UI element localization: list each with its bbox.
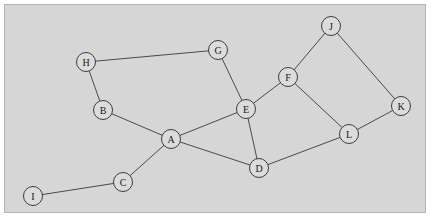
graph-node-circle-a[interactable] [162,130,181,149]
graph-node-d[interactable]: D [250,159,269,178]
graph-edge-a-c [130,145,164,175]
graph-edge-h-b [89,71,100,101]
graph-edge-e-d [248,118,257,158]
graph-node-circle-f[interactable] [279,68,298,87]
graph-panel: ABCDEFGHIJKL [4,4,426,213]
graph-canvas: ABCDEFGHIJKL [5,5,426,213]
graph-edge-j-k [337,33,394,99]
graph-figure: ABCDEFGHIJKL [0,0,431,219]
graph-node-f[interactable]: F [279,68,298,87]
graph-edge-e-f [254,83,281,103]
graph-node-j[interactable]: J [322,17,341,36]
graph-edge-k-l [357,111,392,130]
graph-node-h[interactable]: H [77,53,96,72]
graph-node-b[interactable]: B [94,101,113,120]
graph-node-k[interactable]: K [392,97,411,116]
graph-node-circle-l[interactable] [340,125,359,144]
graph-node-circle-c[interactable] [114,173,133,192]
graph-edge-a-e [180,113,237,136]
graph-node-circle-h[interactable] [77,53,96,72]
graph-edge-g-e [222,59,242,101]
graph-node-circle-k[interactable] [392,97,411,116]
graph-node-circle-e[interactable] [237,100,256,119]
graph-node-circle-j[interactable] [322,17,341,36]
graph-edge-f-l [295,83,342,127]
graph-node-e[interactable]: E [237,100,256,119]
graph-node-g[interactable]: G [209,41,228,60]
graph-node-c[interactable]: C [114,173,133,192]
graph-node-i[interactable]: I [24,187,43,206]
graph-node-circle-i[interactable] [24,187,43,206]
graph-node-a[interactable]: A [162,130,181,149]
graph-edge-h-g [95,51,208,61]
graph-edge-f-j [294,33,325,69]
graph-edge-c-i [42,183,113,194]
graph-edge-a-d [180,142,250,165]
graph-edge-b-a [112,114,163,136]
graph-edge-d-l [268,137,340,164]
graph-node-l[interactable]: L [340,125,359,144]
graph-node-circle-g[interactable] [209,41,228,60]
graph-node-circle-d[interactable] [250,159,269,178]
graph-node-circle-b[interactable] [94,101,113,120]
node-layer: ABCDEFGHIJKL [24,17,411,206]
